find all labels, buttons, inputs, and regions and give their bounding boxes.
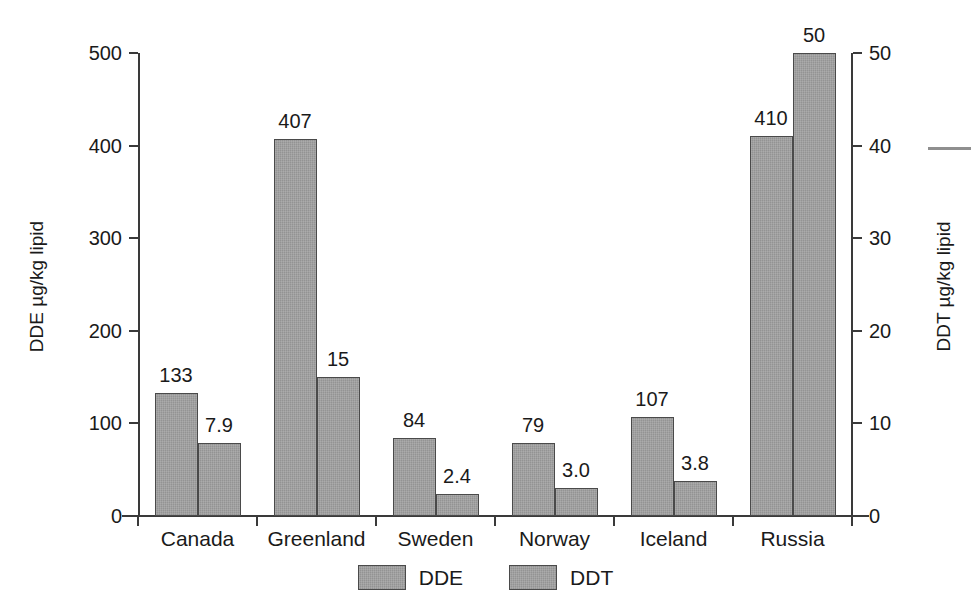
left-axis-tick-label: 400: [52, 136, 122, 156]
bar-value-label: 7.9: [205, 415, 233, 435]
left-axis-tick: [129, 330, 138, 332]
legend-label-ddt: DDT: [570, 567, 613, 588]
right-axis-tick-label: 0: [869, 506, 880, 526]
right-axis-tick: [853, 330, 862, 332]
bar-value-label: 107: [635, 389, 668, 409]
chart-figure: DDE µg/kg lipid DDT µg/kg lipid 01002003…: [0, 0, 971, 603]
x-axis-tick: [851, 516, 853, 526]
left-axis-tick-label: 100: [52, 413, 122, 433]
left-axis-tick: [129, 237, 138, 239]
left-axis-tick-label: 500: [52, 43, 122, 63]
left-axis-tick-label: 300: [52, 228, 122, 248]
x-axis-tick: [494, 516, 496, 526]
right-edge-rule-artifact: [928, 147, 971, 150]
x-axis-category-label: Iceland: [640, 528, 708, 549]
x-axis-tick: [613, 516, 615, 526]
legend-swatch-ddt: [509, 565, 557, 590]
right-axis-tick-label: 20: [869, 321, 891, 341]
left-axis-title: DDE µg/kg lipid: [27, 177, 46, 397]
x-axis-category-label: Greenland: [267, 528, 365, 549]
x-axis-category-label: Norway: [519, 528, 590, 549]
x-axis-tick: [375, 516, 377, 526]
left-axis-spine: [138, 53, 140, 517]
right-axis-tick: [853, 237, 862, 239]
x-axis-tick: [732, 516, 734, 526]
bar-dde-greenland: [274, 139, 317, 516]
bar-value-label: 133: [159, 365, 192, 385]
bar-dde-russia: [750, 136, 793, 516]
right-axis-tick: [853, 515, 862, 517]
chart-legend: DDE DDT: [0, 565, 971, 590]
bar-value-label: 50: [803, 25, 825, 45]
bar-ddt-norway: [555, 488, 598, 516]
bar-ddt-russia: [793, 53, 836, 516]
right-axis-title: DDT µg/kg lipid: [934, 177, 953, 397]
right-axis-tick-label: 30: [869, 228, 891, 248]
right-axis-tick-label: 40: [869, 136, 891, 156]
left-axis-tick-label: 200: [52, 321, 122, 341]
bar-value-label: 84: [403, 410, 425, 430]
bar-dde-canada: [155, 393, 198, 516]
bar-value-label: 2.4: [443, 466, 471, 486]
bar-value-label: 410: [754, 108, 787, 128]
x-axis-category-label: Russia: [760, 528, 824, 549]
left-axis-tick: [129, 52, 138, 54]
legend-entry-ddt[interactable]: DDT: [509, 565, 613, 590]
x-axis-category-label: Canada: [161, 528, 235, 549]
bar-value-label: 15: [327, 349, 349, 369]
legend-label-dde: DDE: [419, 567, 463, 588]
bar-ddt-canada: [198, 443, 241, 516]
right-axis-spine: [851, 53, 853, 517]
right-axis-tick: [853, 52, 862, 54]
bar-ddt-greenland: [317, 377, 360, 516]
left-axis-tick: [129, 145, 138, 147]
bar-ddt-sweden: [436, 494, 479, 516]
bar-value-label: 3.8: [681, 453, 709, 473]
legend-entry-dde[interactable]: DDE: [358, 565, 463, 590]
legend-swatch-dde: [358, 565, 406, 590]
bar-value-label: 79: [522, 415, 544, 435]
x-axis-category-label: Sweden: [398, 528, 474, 549]
left-axis-tick-label: 0: [52, 506, 122, 526]
bar-dde-iceland: [631, 417, 674, 516]
x-axis-tick: [137, 516, 139, 526]
bar-dde-norway: [512, 443, 555, 516]
bar-dde-sweden: [393, 438, 436, 516]
right-axis-tick-label: 10: [869, 413, 891, 433]
bar-value-label: 407: [278, 111, 311, 131]
right-axis-tick: [853, 145, 862, 147]
bar-value-label: 3.0: [562, 460, 590, 480]
x-axis-tick: [256, 516, 258, 526]
bar-ddt-iceland: [674, 481, 717, 516]
right-axis-tick: [853, 422, 862, 424]
right-axis-tick-label: 50: [869, 43, 891, 63]
left-axis-tick: [129, 422, 138, 424]
